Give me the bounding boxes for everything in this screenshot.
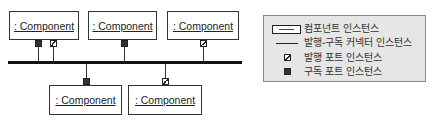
legend-label: 발행 포트 인스턴스	[304, 51, 382, 65]
component-instance: : Component	[9, 11, 79, 40]
legend-item: 컴포넌트 인스턴스	[264, 22, 425, 36]
hatched-square-icon	[284, 54, 291, 61]
legend-label: 발행-구독 커넥터 인스턴스	[304, 36, 412, 50]
legend-label: 구독 포트 인스턴스	[304, 65, 382, 79]
publish-port-icon	[50, 40, 57, 47]
component-box-icon	[272, 25, 301, 34]
publish-port-icon	[200, 40, 207, 47]
component-label: : Component	[92, 20, 152, 32]
legend-label: 컴포넌트 인스턴스	[304, 22, 379, 36]
publish-subscribe-connector	[8, 61, 242, 64]
port-link	[203, 47, 204, 61]
port-link	[165, 64, 166, 78]
publish-port-icon	[162, 78, 169, 85]
port-link	[86, 64, 87, 78]
legend-item: 발행 포트 인스턴스	[264, 51, 425, 65]
component-label: : Component	[135, 94, 195, 106]
legend-item: 발행-구독 커넥터 인스턴스	[264, 36, 425, 50]
component-instance: : Component	[167, 11, 239, 40]
component-label: : Component	[14, 20, 74, 32]
subscribe-port-icon	[121, 40, 128, 47]
legend: 컴포넌트 인스턴스 발행-구독 커넥터 인스턴스 발행 포트 인스턴스 구독 포…	[263, 15, 426, 82]
port-link	[53, 47, 54, 61]
subscribe-port-icon	[83, 78, 90, 85]
component-instance: : Component	[128, 85, 202, 115]
filled-square-icon	[284, 68, 291, 75]
component-label: : Component	[173, 20, 233, 32]
component-instance: : Component	[49, 85, 122, 115]
component-label: : Component	[55, 94, 115, 106]
port-link	[38, 47, 39, 61]
subscribe-port-icon	[35, 40, 42, 47]
port-link	[124, 47, 125, 61]
component-instance: : Component	[88, 11, 157, 40]
legend-item: 구독 포트 인스턴스	[264, 65, 425, 79]
connector-line-icon	[276, 43, 298, 44]
